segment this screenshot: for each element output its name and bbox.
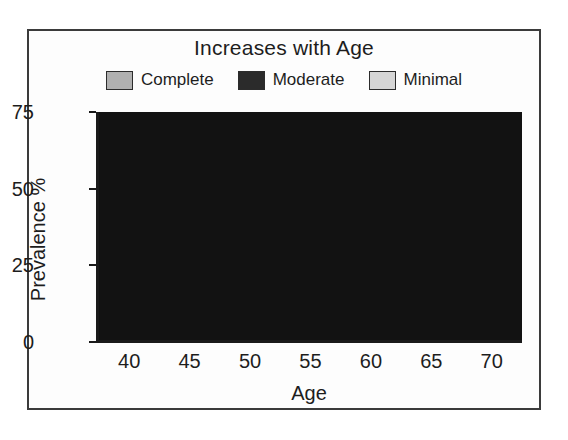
plot-area <box>96 112 522 343</box>
legend-item-moderate: Moderate <box>238 70 345 90</box>
bar-group <box>102 112 522 337</box>
y-tick-mark <box>89 264 96 266</box>
legend-item-minimal: Minimal <box>369 70 463 90</box>
legend-item-complete: Complete <box>106 70 214 90</box>
chart-title: Increases with Age <box>0 36 568 60</box>
x-tick-label-55: 55 <box>280 350 340 373</box>
y-tick-mark <box>89 188 96 190</box>
legend-label-moderate: Moderate <box>273 70 345 90</box>
x-axis-title: Age <box>96 382 522 405</box>
x-tick-label-65: 65 <box>401 350 461 373</box>
y-tick-mark <box>89 341 96 343</box>
y-tick-mark <box>89 111 96 113</box>
bar-slot <box>162 112 222 337</box>
x-tick-label-70: 70 <box>462 350 522 373</box>
bar-slot <box>462 112 522 337</box>
x-tick-label-45: 45 <box>159 350 219 373</box>
y-axis-title: Prevalence % <box>27 140 50 340</box>
legend-swatch-minimal <box>369 71 396 90</box>
x-tick-label-50: 50 <box>220 350 280 373</box>
chart-legend: Complete Moderate Minimal <box>0 70 568 90</box>
bar-slot <box>342 112 402 337</box>
legend-label-minimal: Minimal <box>404 70 463 90</box>
x-tick-label-60: 60 <box>341 350 401 373</box>
bar-slot <box>282 112 342 337</box>
bar-slot <box>102 112 162 337</box>
bar-slot <box>222 112 282 337</box>
legend-swatch-complete <box>106 71 133 90</box>
x-tick-label-40: 40 <box>99 350 159 373</box>
x-axis-ticks: 40455055606570 <box>99 350 522 373</box>
legend-swatch-moderate <box>238 71 265 90</box>
legend-label-complete: Complete <box>141 70 214 90</box>
bar-slot <box>402 112 462 337</box>
y-tick-label-75: 75 <box>0 101 34 124</box>
figure-canvas: Increases with Age Complete Moderate Min… <box>0 0 568 440</box>
